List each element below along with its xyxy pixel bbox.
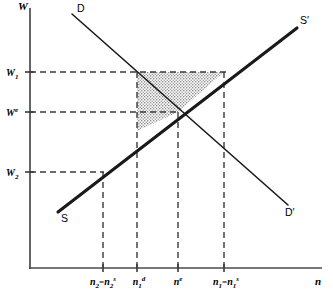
supply-end-label: S′ [300, 14, 309, 26]
demand-start-label: D [77, 2, 85, 14]
demand-end-label: D′ [285, 206, 295, 218]
x-tick-labels: n2=n2s n1d ne n1=n1s [90, 275, 239, 290]
y-tick-labels: W1 We W2 [6, 67, 19, 181]
guide-lines [30, 72, 226, 268]
x-tick-ne: ne [174, 275, 183, 287]
x-axis-label: n [315, 275, 321, 287]
diagram-canvas: W n D S′ S D′ W1 We W2 n2=n2s [0, 0, 333, 296]
x-tick-n1: n1=n1s [213, 275, 239, 290]
y-tick-w1: W1 [6, 67, 18, 81]
y-tick-w2: W2 [6, 167, 19, 181]
y-tick-we: We [6, 106, 18, 118]
x-tick-n1d: n1d [133, 275, 146, 290]
figure-container: W n D S′ S D′ W1 We W2 n2=n2s [0, 0, 333, 296]
axis-lines [29, 8, 322, 269]
supply-start-label: S [61, 212, 68, 224]
y-axis-label: W [18, 0, 29, 12]
x-tick-n2: n2=n2s [90, 275, 116, 290]
welfare-loss-region [137, 72, 224, 131]
